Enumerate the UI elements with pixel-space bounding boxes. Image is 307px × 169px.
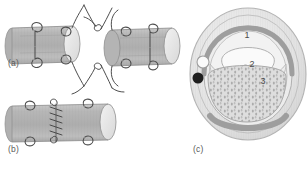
right-tube (104, 28, 180, 66)
panel-c-illustration: 1 2 3 (188, 4, 307, 148)
figure-canvas: (a) (0, 0, 307, 169)
open-circle-marker (197, 56, 209, 68)
panel-a-illustration (0, 0, 185, 100)
callout-1: 1 (244, 30, 249, 40)
panel-a-label: (a) (8, 58, 19, 68)
filled-circle-marker (193, 73, 204, 84)
panel-c-label: (c) (193, 144, 204, 154)
callout-3: 3 (260, 76, 265, 86)
callout-2: 2 (249, 59, 254, 69)
bottom-stay-suture-thread (72, 62, 124, 94)
top-stay-suture-thread (72, 5, 118, 31)
panel-b-label: (b) (8, 144, 19, 154)
panel-b-illustration (0, 92, 185, 150)
